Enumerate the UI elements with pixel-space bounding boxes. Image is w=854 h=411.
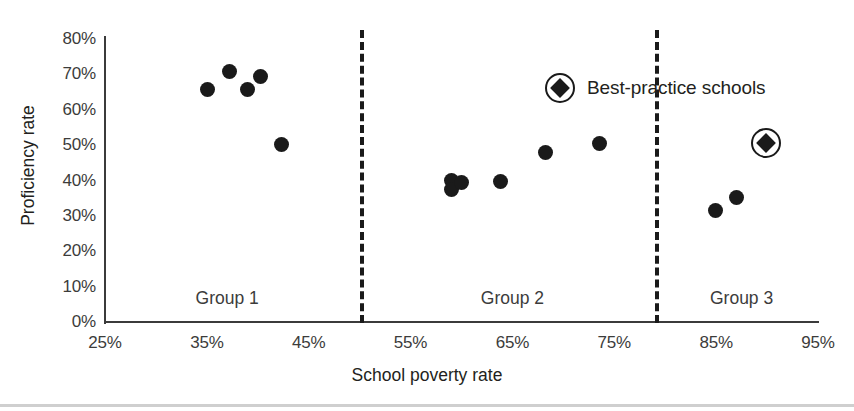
page-bottom-rule (0, 404, 854, 407)
school-data-point (253, 69, 268, 84)
x-axis-line (104, 321, 819, 323)
school-data-point (592, 136, 607, 151)
scatter-chart-figure: 0%10%20%30%40%50%60%70%80% 25%35%45%55%6… (0, 0, 854, 411)
school-data-point (454, 175, 469, 190)
school-data-point (538, 145, 553, 160)
school-data-point (274, 137, 289, 152)
x-tick-label: 85% (676, 334, 756, 351)
x-tick-label: 35% (167, 334, 247, 351)
y-axis-title: Proficiency rate (18, 46, 39, 286)
y-tick-label: 40% (40, 172, 96, 189)
y-tick-label: 60% (40, 101, 96, 118)
school-data-point (240, 82, 255, 97)
y-tick-label: 10% (40, 278, 96, 295)
school-data-point (708, 203, 723, 218)
group-label: Group 2 (412, 288, 612, 309)
y-tick-label: 50% (40, 136, 96, 153)
legend-label: Best-practice schools (587, 77, 765, 99)
school-data-point (200, 82, 215, 97)
group-label: Group 1 (127, 288, 327, 309)
best-practice-data-point (751, 128, 781, 158)
group-divider-line (360, 30, 364, 323)
x-axis-title: School poverty rate (0, 365, 854, 386)
y-tick-label: 80% (40, 30, 96, 47)
best-practice-marker-icon (545, 73, 575, 103)
y-tick-label: 20% (40, 242, 96, 259)
legend: Best-practice schools (545, 73, 765, 103)
y-axis-line (104, 36, 106, 324)
x-tick-label: 25% (65, 334, 145, 351)
y-tick-label: 30% (40, 207, 96, 224)
x-tick-label: 95% (778, 334, 854, 351)
y-tick-label: 0% (40, 313, 96, 330)
y-tick-label: 70% (40, 65, 96, 82)
x-tick-label: 55% (371, 334, 451, 351)
x-tick-label: 65% (472, 334, 552, 351)
school-data-point (222, 64, 237, 79)
school-data-point (493, 174, 508, 189)
x-tick-label: 45% (269, 334, 349, 351)
group-label: Group 3 (642, 288, 842, 309)
x-tick-label: 75% (574, 334, 654, 351)
school-data-point (729, 190, 744, 205)
